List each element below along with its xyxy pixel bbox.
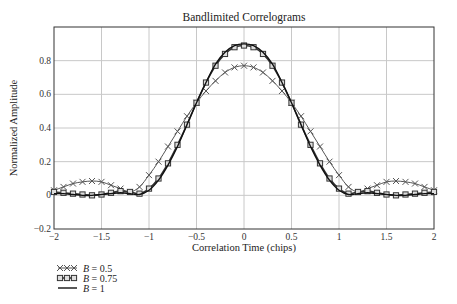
y-tick-label: 0.8	[39, 56, 51, 66]
x-tick-label: −1	[144, 232, 154, 242]
data-point-x-marker	[61, 184, 67, 190]
data-point-square-marker	[61, 190, 66, 195]
y-tick-label: 0.6	[39, 89, 51, 99]
data-point-x-marker	[422, 184, 428, 190]
x-tick-labels: −2−1.5−1−0.500.511.52	[49, 232, 437, 242]
data-point-x-marker	[108, 182, 114, 188]
legend-value: = 1	[89, 283, 105, 294]
legend-label: B = 1	[83, 283, 105, 294]
data-point-x-marker	[222, 69, 228, 75]
y-tick-labels: −0.200.20.40.60.8	[34, 56, 51, 234]
y-axis-label: Normalized Amplitude	[8, 79, 19, 176]
data-point-square-marker	[422, 190, 427, 195]
y-tick-label: 0.4	[39, 123, 51, 133]
data-point-x-marker	[374, 182, 380, 188]
legend-item: B = 1	[58, 283, 105, 294]
data-point-x-marker	[346, 184, 352, 190]
data-point-x-marker	[251, 64, 257, 70]
x-axis-label: Correlation Time (chips)	[192, 242, 296, 254]
data-point-x-marker	[308, 128, 314, 134]
data-point-x-marker	[165, 144, 171, 150]
chart-title: Bandlimited Correlograms	[183, 11, 306, 24]
data-point-x-marker	[232, 64, 238, 70]
data-point-x-marker	[213, 78, 219, 84]
data-point-x-marker	[175, 128, 181, 134]
data-point-x-marker	[270, 78, 276, 84]
legend: B = 0.5B = 0.75B = 1	[57, 263, 117, 294]
data-point-x-marker	[260, 69, 266, 75]
y-tick-label: 0.2	[39, 157, 51, 167]
y-tick-label: −0.2	[34, 224, 51, 234]
data-point-x-marker	[317, 144, 323, 150]
data-point-x-marker	[203, 88, 209, 94]
x-tick-label: −1.5	[93, 232, 110, 242]
data-point-square-marker	[80, 192, 85, 197]
x-tick-label: 0	[242, 232, 247, 242]
data-point-x-marker	[279, 88, 285, 94]
correlogram-chart: Bandlimited Correlograms −2−1.5−1−0.500.…	[0, 0, 457, 304]
x-tick-label: 1	[337, 232, 342, 242]
x-tick-label: 1.5	[381, 232, 393, 242]
data-point-square-marker	[71, 275, 76, 280]
grid	[54, 27, 434, 229]
data-point-square-marker	[403, 192, 408, 197]
x-tick-label: 2	[432, 232, 437, 242]
data-point-x-marker	[137, 184, 143, 190]
x-tick-label: 0.5	[286, 232, 298, 242]
data-point-square-marker	[64, 275, 69, 280]
y-tick-label: 0	[46, 190, 51, 200]
data-point-square-marker	[57, 275, 62, 280]
x-tick-label: −0.5	[188, 232, 205, 242]
